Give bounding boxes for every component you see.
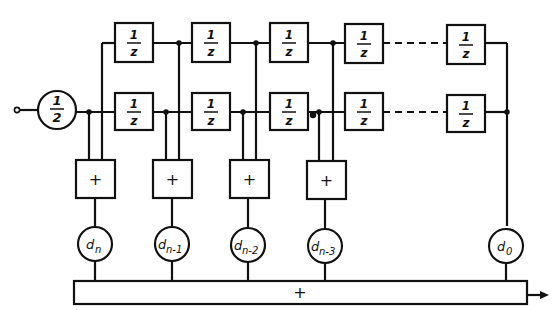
adder-2-inputs <box>163 40 182 160</box>
svg-text:+: + <box>89 170 102 189</box>
coefficient-d-n-3: d n-3 <box>308 229 342 263</box>
svg-text:1: 1 <box>207 97 215 111</box>
svg-text:z: z <box>130 114 139 128</box>
svg-text:1: 1 <box>462 99 470 113</box>
top-delay-3: 1 z <box>270 23 308 62</box>
svg-text:1: 1 <box>462 30 470 44</box>
svg-text:d: d <box>497 239 506 254</box>
svg-text:+: + <box>243 170 256 189</box>
svg-text:n-2: n-2 <box>242 245 258 256</box>
scaler-numerator: 1 <box>52 93 61 108</box>
bottom-delay-2: 1 z <box>192 93 230 130</box>
svg-text:n-1: n-1 <box>166 244 182 255</box>
svg-text:1: 1 <box>285 97 293 111</box>
svg-text:z: z <box>462 47 471 61</box>
svg-text:1: 1 <box>360 29 368 43</box>
coefficient-d-n-1: d n-1 <box>155 227 189 261</box>
svg-text:1: 1 <box>207 28 215 42</box>
adder-3-inputs <box>240 40 259 160</box>
adder-2: + <box>153 160 192 198</box>
svg-text:d: d <box>86 237 95 252</box>
input-terminal <box>14 107 38 112</box>
scaler-denominator: 2 <box>52 110 61 125</box>
svg-text:1: 1 <box>360 97 368 111</box>
svg-text:+: + <box>166 170 179 189</box>
svg-text:z: z <box>360 46 369 60</box>
summation-label: + <box>293 283 306 302</box>
svg-text:1: 1 <box>285 28 293 42</box>
block-diagram: 1 2 <box>0 0 556 310</box>
svg-text:+: + <box>320 171 333 190</box>
coefficient-d-n-2: d n-2 <box>231 228 265 262</box>
adder-4: + <box>307 161 346 199</box>
adder-3: + <box>230 160 269 198</box>
summation-bar: + <box>74 281 527 304</box>
top-delay-2: 1 z <box>192 23 230 62</box>
bottom-delay-n: 1 z <box>447 95 485 132</box>
bottom-delay-1: 1 z <box>115 93 153 130</box>
coefficient-d-0: d 0 <box>489 229 523 263</box>
top-delay-1: 1 z <box>115 23 153 62</box>
input-scaler-circle: 1 2 <box>38 91 76 129</box>
adder-4-inputs <box>310 40 336 160</box>
svg-text:z: z <box>130 45 139 59</box>
coefficient-d-n: d n <box>78 227 112 261</box>
top-delay-4: 1 z <box>345 24 383 63</box>
svg-text:z: z <box>285 114 294 128</box>
bottom-delay-4: 1 z <box>345 93 383 130</box>
output-arrow-icon <box>527 291 549 299</box>
adder-1-inputs <box>86 43 102 160</box>
svg-text:z: z <box>360 114 369 128</box>
svg-text:z: z <box>462 116 471 130</box>
final-tap-wire <box>504 43 510 226</box>
svg-text:z: z <box>285 45 294 59</box>
top-delay-n: 1 z <box>447 25 485 64</box>
svg-text:n: n <box>95 244 101 255</box>
svg-text:1: 1 <box>130 97 138 111</box>
svg-text:1: 1 <box>130 28 138 42</box>
svg-text:n-3: n-3 <box>319 246 335 257</box>
svg-text:z: z <box>207 45 216 59</box>
svg-text:z: z <box>207 114 216 128</box>
adder-1: + <box>76 160 115 198</box>
bottom-delay-3: 1 z <box>270 93 308 130</box>
svg-text:0: 0 <box>506 246 512 257</box>
